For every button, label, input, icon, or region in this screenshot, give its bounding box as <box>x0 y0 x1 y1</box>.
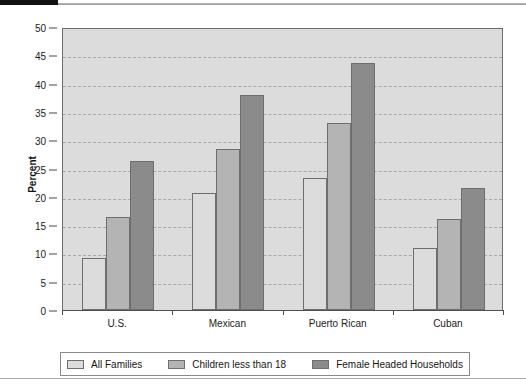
legend-label: All Families <box>91 359 142 370</box>
legend-item: All Families <box>67 359 142 370</box>
top-horizontal-rule <box>58 3 526 5</box>
bar <box>461 188 485 310</box>
y-tick-label: 10 <box>35 249 46 260</box>
bar-chart: 05101520253035404550 Percent U.S.Mexican… <box>0 14 526 374</box>
x-tick-label: Mexican <box>209 318 246 329</box>
y-axis-title: Percent <box>27 156 38 193</box>
bar <box>240 95 264 310</box>
gridline <box>63 114 502 115</box>
gridline <box>63 142 502 143</box>
y-tick-label: 45 <box>35 51 46 62</box>
y-tick-label: 35 <box>35 107 46 118</box>
legend-item: Female Headed Households <box>312 359 463 370</box>
x-tick-label: Cuban <box>433 318 462 329</box>
top-black-accent-bar <box>0 0 58 5</box>
y-tick-label: 40 <box>35 79 46 90</box>
bar <box>351 63 375 310</box>
x-tick-label: Puerto Rican <box>309 318 367 329</box>
y-tick-mark <box>49 169 57 170</box>
y-tick-mark <box>49 28 57 29</box>
x-tick-mark <box>62 310 63 315</box>
gridline <box>63 199 502 200</box>
y-tick-mark <box>49 84 57 85</box>
gridline <box>63 57 502 58</box>
y-tick-label: 30 <box>35 136 46 147</box>
gridline <box>63 171 502 172</box>
y-tick-mark <box>49 254 57 255</box>
y-tick-mark <box>49 226 57 227</box>
bar <box>192 193 216 310</box>
bottom-horizontal-rule <box>0 378 526 379</box>
y-tick-mark <box>49 112 57 113</box>
x-tick-mark <box>503 310 504 315</box>
y-tick-mark <box>49 282 57 283</box>
bar <box>303 178 327 310</box>
y-tick-label: 0 <box>40 306 46 317</box>
legend-label: Children less than 18 <box>192 359 286 370</box>
bar <box>413 248 437 310</box>
legend-swatch-icon <box>67 360 84 369</box>
gridline <box>63 86 502 87</box>
bar <box>216 149 240 310</box>
bar <box>106 217 130 310</box>
plot-area <box>62 28 503 311</box>
x-tick-label: U.S. <box>107 318 126 329</box>
x-tick-mark <box>172 310 173 315</box>
bar <box>437 219 461 310</box>
y-tick-mark <box>49 141 57 142</box>
legend-swatch-icon <box>312 360 329 369</box>
bar <box>82 258 106 310</box>
legend-item: Children less than 18 <box>168 359 286 370</box>
bar <box>130 161 154 310</box>
bar <box>327 123 351 310</box>
legend-label: Female Headed Households <box>336 359 463 370</box>
y-tick-label: 5 <box>40 277 46 288</box>
x-tick-mark <box>283 310 284 315</box>
chart-legend: All FamiliesChildren less than 18Female … <box>60 352 470 376</box>
y-tick-mark <box>49 56 57 57</box>
y-tick-mark <box>49 311 57 312</box>
legend-swatch-icon <box>168 360 185 369</box>
y-tick-label: 20 <box>35 192 46 203</box>
y-tick-mark <box>49 197 57 198</box>
y-tick-label: 15 <box>35 221 46 232</box>
x-tick-mark <box>393 310 394 315</box>
y-tick-label: 50 <box>35 23 46 34</box>
